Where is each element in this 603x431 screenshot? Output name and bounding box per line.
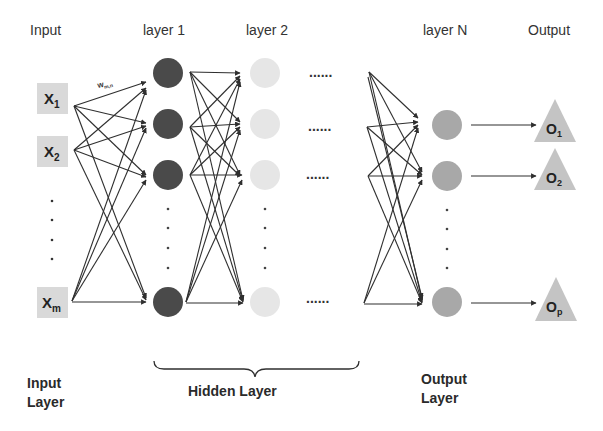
horizontal-ellipses: ...... ...... ...... ......: [306, 64, 332, 306]
layerN-node: [432, 110, 462, 140]
input-label-x1: X: [44, 90, 54, 107]
layer2-node: [250, 58, 280, 88]
edges-to-layerN: [364, 72, 422, 304]
input-vertical-ellipsis: [51, 200, 54, 261]
layer1-node: [153, 109, 183, 139]
layerN-node: [432, 161, 462, 191]
ellipsis-row-3: ......: [306, 166, 329, 182]
layer2-node: [250, 287, 280, 317]
svg-text:wm,n: wm,n: [96, 78, 114, 91]
edges-input-to-layer1: [72, 82, 146, 302]
layer1-node: [153, 160, 183, 190]
layer2-nodes: [250, 58, 280, 317]
output-label-o2: O: [546, 170, 557, 186]
output-label-o1: O: [546, 121, 557, 137]
hidden-layer-label: Hidden Layer: [188, 382, 277, 401]
layer1-node: [153, 287, 183, 317]
ellipsis-row-2: ......: [308, 118, 331, 134]
output-layer-label: Output Layer: [421, 370, 467, 408]
ellipsis-row-1: ......: [309, 64, 332, 80]
layer2-node: [250, 109, 280, 139]
ellipsis-row-4: ......: [306, 290, 329, 306]
output-label-op: O: [546, 299, 557, 315]
layer1-node: [153, 58, 183, 88]
edges-layer1-to-layer2: [186, 72, 243, 303]
input-nodes: X1 X2 Xm: [37, 83, 68, 318]
neural-network-diagram: X1 X2 Xm wm,n: [0, 0, 603, 431]
input-label-x2: X: [44, 143, 54, 160]
layerN-vertical-ellipsis: [446, 209, 449, 270]
layer2-vertical-ellipsis: [264, 208, 267, 270]
layerN-nodes: [432, 110, 462, 317]
hidden-layer-brace: [154, 361, 359, 377]
input-layer-label: Input Layer: [27, 374, 64, 412]
input-label-xm: X: [42, 294, 52, 311]
edges-layerN-to-output: [471, 125, 536, 303]
layer1-nodes: [153, 58, 183, 317]
layerN-node: [432, 287, 462, 317]
layer1-vertical-ellipsis: [167, 208, 170, 270]
layer2-node: [250, 160, 280, 190]
